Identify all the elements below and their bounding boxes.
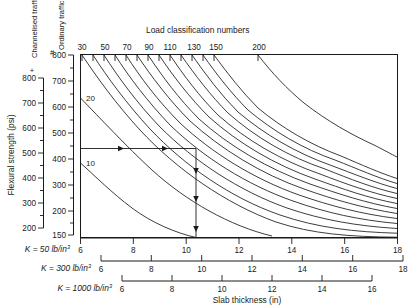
k1000-tick-10: 10 [217,285,227,294]
curve-lcn-90 [148,55,397,209]
outer-left-axis [38,78,44,228]
bottom-axis-k50 [81,238,398,244]
k1000-tick-16: 16 [367,285,377,294]
k50-tick-12: 12 [234,246,244,255]
top-tick-label-150: 150 [209,43,223,52]
top-tick-label-110: 110 [163,43,176,52]
outer-tick-label-300: 300 [22,199,36,208]
k300-tick-18: 18 [398,265,408,274]
k50-tick-18: 18 [393,246,403,255]
outer-tick-label-700: 700 [22,99,36,108]
arrow-marker-h2 [162,146,168,152]
arrow-marker-h1 [118,146,124,152]
top-tick-label-130: 130 [187,43,201,52]
outer-tick-label-200: 200 [22,224,36,233]
k50-label-exp: 3 [67,244,71,250]
curve-lcn-40 [93,55,397,233]
curve-label-10: 10 [86,159,95,168]
inner-tick-label-700: 700 [52,77,66,86]
k50-tick-6: 6 [78,246,83,255]
top-tick-label-30: 30 [77,43,87,52]
top-tick-label-50: 50 [100,43,110,52]
k300-label: K = 300 lb/in3 [41,263,92,274]
bottom-axis-k300 [101,255,403,261]
k50-label: K = 50 lb/in3 [25,244,71,255]
outer-tick-label-800: 800 [22,74,36,83]
k300-tick-8: 8 [149,265,154,274]
construction-lines [81,146,199,238]
top-tick-label-90: 90 [144,43,154,52]
inner-tick-label-600: 600 [52,103,66,112]
k50-tick-8: 8 [131,246,136,255]
inner-tick-label-800: 800 [52,51,66,60]
k50-tick-14: 14 [287,246,297,255]
k1000-tick-14: 14 [317,285,327,294]
curve-lcn-10 [81,163,197,238]
k50-tick-10: 10 [182,246,192,255]
curve-lcn-200 [258,55,397,157]
inner-tick-label-150: 150 [52,231,66,240]
curve-label-20: 20 [86,94,95,103]
arrow-marker-v2 [193,196,199,202]
inner-tick-label-300: 300 [52,181,66,190]
ordinary-traffic-label: Ordinary traffic [57,0,66,50]
bottom-axis-title: Slab thickness (in) [213,295,282,305]
curve-family [81,55,398,238]
k300-tick-6: 6 [99,265,104,274]
curve-lcn-120 [181,55,397,194]
top-axis-ticks [82,55,258,61]
k1000-label-text: K = 1000 lb/in [57,283,109,293]
curve-lcn-100 [159,55,397,204]
k1000-label-exp: 3 [109,283,113,289]
inner-tick-label-400: 400 [52,155,66,164]
k1000-tick-8: 8 [170,285,175,294]
k300-tick-16: 16 [348,265,358,274]
inner-tick-label-200: 200 [52,207,66,216]
k1000-tick-6: 6 [120,285,125,294]
k50-label-text: K = 50 lb/in [25,244,67,254]
k300-tick-14: 14 [298,265,308,274]
left-axis-title: Flexural strength (psi) [6,114,16,195]
k300-label-exp: 3 [88,263,92,269]
k300-label-text: K = 300 lb/in [41,263,88,273]
top-tick-label-200: 200 [252,43,266,52]
arrow-marker-v3 [193,226,199,232]
inner-left-axis [68,55,74,235]
chart-page: Load classification numbers 30 50 70 90 … [0,0,419,306]
top-tick-label-70: 70 [122,43,132,52]
curve-lcn-130 [192,55,397,189]
inner-tick-label-500: 500 [52,129,66,138]
outer-tick-label-500: 500 [22,149,36,158]
channelised-traffic-label: Channelised traffic [30,0,39,58]
k50-tick-16: 16 [340,246,350,255]
design-chart: Load classification numbers 30 50 70 90 … [0,0,419,306]
bottom-axis-k1000 [122,275,372,281]
top-axis-title: Load classification numbers [146,25,249,35]
outer-tick-label-600: 600 [22,124,36,133]
k1000-label: K = 1000 lb/in3 [57,283,112,294]
k1000-tick-12: 12 [267,285,277,294]
k300-tick-12: 12 [247,265,257,274]
k300-tick-10: 10 [197,265,207,274]
channelised-plus-symbol: + [30,66,35,75]
outer-tick-label-400: 400 [22,174,36,183]
curve-lcn-140 [203,55,397,184]
